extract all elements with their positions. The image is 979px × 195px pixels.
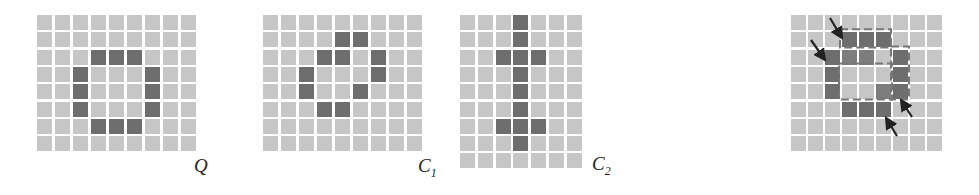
dashed-outline	[839, 64, 892, 100]
arrow-icon	[830, 18, 842, 38]
dashed-outline	[840, 29, 891, 47]
overlay-annotations	[0, 0, 979, 195]
arrow-icon	[901, 100, 912, 117]
dashed-outline	[891, 47, 909, 100]
arrow-icon	[811, 40, 825, 60]
arrow-icon	[886, 118, 897, 136]
